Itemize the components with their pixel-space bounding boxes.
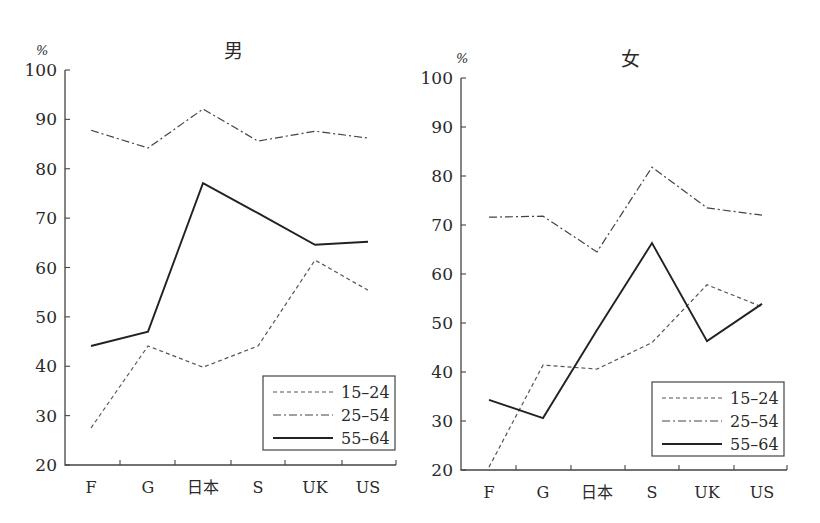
series-line-25-54 <box>91 109 368 148</box>
x-tick-label: S <box>647 483 658 502</box>
y-tick-label: 50 <box>35 307 57 327</box>
chart-panel-female: 2030405060708090100FG日本SUKUS女%15–2425–54… <box>421 48 787 502</box>
x-tick-label: 日本 <box>187 478 219 497</box>
legend-label: 55–64 <box>730 435 779 454</box>
y-tick-label: 60 <box>35 258 57 278</box>
chart-figure: 2030405060708090100FG日本SUKUS男%15–2425–54… <box>0 0 820 523</box>
y-tick-label: 80 <box>35 159 57 179</box>
y-tick-label: 40 <box>35 356 57 376</box>
x-tick-label: US <box>356 478 380 497</box>
y-tick-label: 20 <box>35 455 57 475</box>
x-tick-label: G <box>537 483 550 502</box>
x-tick-label: UK <box>694 483 720 502</box>
y-tick-label: 30 <box>35 406 57 426</box>
x-tick-label: S <box>253 478 264 497</box>
y-axis-unit-label: % <box>36 43 48 58</box>
y-tick-label: 90 <box>35 109 57 129</box>
y-tick-label: 50 <box>431 313 453 333</box>
y-tick-label: 40 <box>431 362 453 382</box>
y-axis-unit-label: % <box>456 51 468 66</box>
chart-title: 女 <box>621 48 640 70</box>
y-tick-label: 90 <box>431 117 453 137</box>
y-tick-label: 20 <box>431 460 453 480</box>
legend-label: 15–24 <box>730 389 779 408</box>
legend-label: 55–64 <box>341 429 390 448</box>
y-tick-label: 70 <box>35 208 57 228</box>
x-tick-label: US <box>750 483 774 502</box>
series-line-55-64 <box>91 183 368 346</box>
charts-canvas: 2030405060708090100FG日本SUKUS男%15–2425–54… <box>0 0 820 523</box>
legend: 15–2425–5455–64 <box>652 382 784 456</box>
x-tick-label: F <box>85 478 96 497</box>
legend-label: 25–54 <box>730 412 779 431</box>
legend: 15–2425–5455–64 <box>263 376 395 450</box>
legend-label: 15–24 <box>341 383 390 402</box>
chart-panel-male: 2030405060708090100FG日本SUKUS男%15–2425–54… <box>25 40 396 497</box>
y-tick-label: 100 <box>25 60 57 80</box>
x-tick-label: G <box>142 478 155 497</box>
y-tick-label: 30 <box>431 411 453 431</box>
x-tick-label: 日本 <box>581 483 613 502</box>
y-tick-label: 80 <box>431 166 453 186</box>
series-line-25-54 <box>489 167 762 252</box>
y-tick-label: 100 <box>421 68 453 88</box>
chart-title: 男 <box>224 40 243 62</box>
y-tick-label: 70 <box>431 215 453 235</box>
x-tick-label: F <box>483 483 494 502</box>
legend-label: 25–54 <box>341 406 390 425</box>
x-tick-label: UK <box>302 478 328 497</box>
y-tick-label: 60 <box>431 264 453 284</box>
